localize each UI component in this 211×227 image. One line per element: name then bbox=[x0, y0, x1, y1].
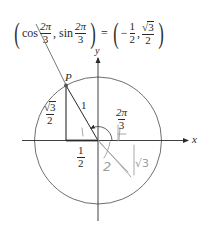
leader-line bbox=[36, 24, 66, 85]
angle-label: 2π 3 bbox=[115, 107, 128, 131]
x-axis-label: x bbox=[192, 134, 197, 145]
radius-hypotenuse bbox=[66, 86, 98, 141]
height-label-num: √ 3 bbox=[43, 101, 57, 113]
base-label-num: 1 bbox=[77, 145, 85, 156]
height-label-den: 2 bbox=[46, 114, 54, 126]
height-label: √ 3 2 bbox=[43, 101, 57, 126]
y-axis-label: y bbox=[95, 46, 99, 56]
point-p-marker bbox=[64, 84, 68, 88]
angle-label-den: 3 bbox=[118, 119, 126, 131]
base-label-den: 2 bbox=[77, 157, 85, 169]
handwritten-sqrt3: √3 bbox=[135, 158, 149, 169]
diagram-graphics bbox=[0, 0, 211, 227]
handwritten-2: 2 bbox=[103, 160, 111, 173]
radicand: 3 bbox=[49, 101, 56, 113]
angle-label-num: 2π bbox=[115, 107, 128, 118]
base-label: 1 2 bbox=[77, 145, 85, 169]
point-p-label: P bbox=[65, 72, 72, 83]
unit-circle-diagram: ( cos 2π 3 , sin 2π 3 ) = ( − 1 2 , √ 3 … bbox=[0, 0, 211, 227]
hypotenuse-label: 1 bbox=[81, 100, 87, 111]
